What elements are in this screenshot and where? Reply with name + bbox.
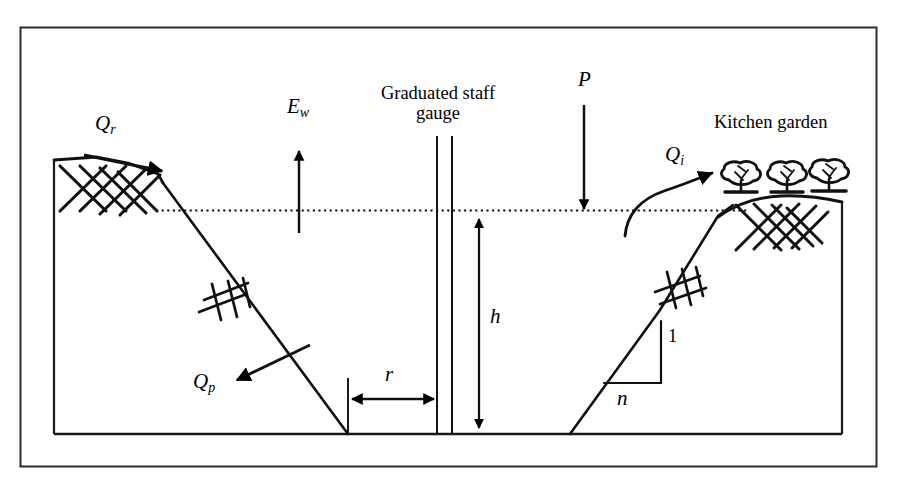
label-depth: h [490, 305, 501, 328]
label-staff-gauge: Graduated staffgauge [372, 84, 504, 124]
right-slope-soil-hatch-upper [655, 267, 706, 308]
label-seepage: Qp [193, 370, 215, 395]
label-slope-vertical: 1 [668, 327, 677, 347]
left-slope-soil-hatch [199, 278, 250, 320]
left-inner-slope [163, 183, 348, 434]
label-kitchen-garden: Kitchen garden [714, 113, 828, 133]
label-evaporation: Ew [287, 95, 309, 120]
right-bank-soil-hatch [736, 204, 828, 250]
label-precipitation: P [578, 68, 591, 91]
label-runoff: Qr [95, 112, 116, 137]
label-irrigation: Qi [665, 143, 684, 168]
tree-3 [810, 159, 849, 191]
tree-2 [768, 161, 807, 192]
irrigation-arrow [625, 173, 712, 236]
label-radius: r [385, 363, 393, 386]
right-inner-slope [570, 205, 733, 434]
pond-cross-section-diagram: Qr Ew Graduated staffgauge P Kitchen gar… [0, 0, 897, 483]
graduated-staff-gauge [437, 136, 452, 434]
diagram-canvas [0, 0, 897, 483]
tree-1 [722, 161, 761, 192]
left-bank-soil-hatch [60, 166, 160, 215]
label-slope-horizontal: n [617, 387, 628, 410]
percolation-arrow [237, 345, 310, 380]
